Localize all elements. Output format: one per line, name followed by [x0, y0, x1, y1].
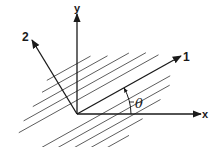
- hatch-line: [21, 85, 170, 147]
- x-axis-label: x: [202, 108, 209, 120]
- coordinate-diagram: x y 1 2 θ: [0, 0, 222, 147]
- hatch-line: [24, 53, 146, 121]
- hatch-line: [22, 76, 171, 147]
- hatch-line: [42, 56, 108, 93]
- angle-label: θ: [135, 96, 143, 111]
- y-axis-label: y: [74, 2, 81, 14]
- axis-1: [77, 56, 181, 114]
- hatch-line: [47, 56, 91, 80]
- axis-2-label: 2: [22, 30, 29, 44]
- axis-1-label: 1: [183, 50, 190, 64]
- fiber-hatching: [19, 53, 170, 147]
